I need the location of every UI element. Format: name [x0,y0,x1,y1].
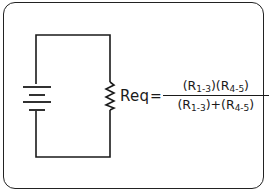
num-term1-open: (R [183,78,197,93]
wire-bottom [36,110,110,157]
den-term2-close: ) [249,97,254,112]
num-term2-open: (R [216,78,230,93]
numerator: (R1-3)(R4-5) [183,78,249,94]
equals-sign: = [150,88,162,104]
resistor-icon [106,82,114,110]
fraction-bar [163,95,269,96]
equivalent-resistance-formula: Req = (R1-3)(R4-5) (R1-3)+(R4-5) [120,78,269,113]
den-term2-sub: 4-5 [235,103,250,113]
den-term1-sub: 1-3 [191,103,206,113]
den-term1-open: (R [177,97,191,112]
denominator: (R1-3)+(R4-5) [177,97,254,113]
num-term2-close: ) [244,78,249,93]
fraction: (R1-3)(R4-5) (R1-3)+(R4-5) [163,78,269,113]
plus-operator: + [211,97,221,112]
num-term1-sub: 1-3 [196,84,211,94]
den-term2-open: (R [221,97,235,112]
wire-top [36,35,110,84]
num-term2-sub: 4-5 [229,84,244,94]
formula-lhs: Req [120,87,149,105]
battery-icon [23,87,51,110]
